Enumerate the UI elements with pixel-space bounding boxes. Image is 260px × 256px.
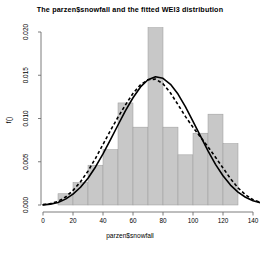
histogram-bar — [178, 155, 193, 205]
x-axis-tick-label: 20 — [69, 217, 77, 224]
histogram-bars — [58, 28, 238, 205]
x-axis-tick-label: 40 — [99, 217, 107, 224]
histogram-bar — [148, 28, 163, 205]
histogram-bar — [223, 144, 238, 205]
histogram-bar — [208, 114, 223, 205]
x-axis-tick-label: 140 — [248, 217, 259, 224]
y-axis-tick-label: 0.010 — [22, 110, 29, 126]
y-axis-tick-label: 0.000 — [22, 197, 29, 213]
chart-container: The parzen$snowfall and the fitted WEI3 … — [0, 0, 260, 256]
histogram-bar — [103, 150, 118, 205]
histogram-bar — [163, 127, 178, 205]
x-axis-tick-label: 60 — [129, 217, 137, 224]
x-axis-title: parzen$snowfall — [106, 232, 154, 240]
y-axis-tick-label: 0.005 — [22, 153, 29, 169]
chart-canvas: 0.0000.0050.0100.0150.020 02040608010012… — [0, 0, 260, 256]
y-axis-title: f() — [5, 117, 13, 123]
x-axis-tick-label: 0 — [41, 217, 45, 224]
x-axis: 020406080100120140 — [41, 212, 259, 224]
histogram-bar — [133, 127, 148, 205]
histogram-bar — [118, 103, 133, 205]
x-axis-tick-label: 120 — [218, 217, 229, 224]
x-axis-tick-label: 100 — [188, 217, 199, 224]
y-axis-tick-label: 0.020 — [22, 24, 29, 40]
y-axis-tick-label: 0.015 — [22, 67, 29, 83]
x-axis-tick-label: 80 — [159, 217, 167, 224]
histogram-bar — [88, 165, 103, 205]
y-axis: 0.0000.0050.0100.0150.020 — [22, 24, 41, 213]
histogram-bar — [73, 183, 88, 205]
